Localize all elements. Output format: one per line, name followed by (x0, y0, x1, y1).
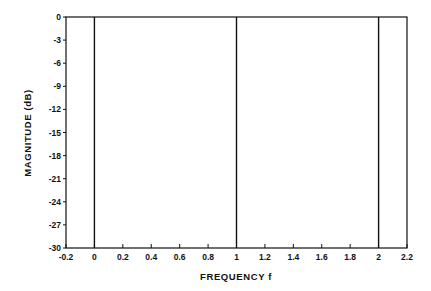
chart: -0.200.20.40.60.811.21.41.61.822.2 0-3-6… (0, 0, 431, 291)
x-tick-label: 2 (376, 252, 381, 262)
y-axis-label: MAGNITUDE (dB) (22, 89, 33, 177)
x-tick-label: 1.6 (316, 252, 328, 262)
x-tick-label: 1.8 (344, 252, 356, 262)
x-tick-label: 1.4 (287, 252, 299, 262)
x-axis-label: FREQUENCY f (200, 271, 272, 282)
x-tick-label: 1.2 (259, 252, 271, 262)
x-tick-label: 0.6 (174, 252, 186, 262)
y-tick-label: -12 (49, 104, 62, 114)
y-tick-label: -9 (53, 81, 61, 91)
y-tick-label: -27 (49, 220, 62, 230)
y-tick-label: -21 (49, 174, 62, 184)
y-tick-label: -3 (53, 35, 61, 45)
y-tick-label: -15 (49, 128, 62, 138)
y-tick-label: -30 (49, 243, 62, 253)
x-tick-label: 2.2 (401, 252, 413, 262)
x-tick-label: 1 (234, 252, 239, 262)
data-series (94, 17, 378, 248)
x-tick-label: 0 (92, 252, 97, 262)
x-tick-label: -0.2 (59, 252, 74, 262)
x-tick-label: 0.2 (117, 252, 129, 262)
y-tick-label: -6 (53, 58, 61, 68)
y-tick-label: 0 (56, 12, 61, 22)
y-axis-ticks: 0-3-6-9-12-15-18-21-24-27-30 (49, 12, 66, 253)
x-tick-label: 0.8 (202, 252, 214, 262)
y-tick-label: -24 (49, 197, 62, 207)
y-tick-label: -18 (49, 151, 62, 161)
x-tick-label: 0.4 (145, 252, 157, 262)
